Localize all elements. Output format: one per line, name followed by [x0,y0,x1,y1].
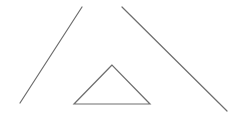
small-triangle [74,65,150,104]
right-line [122,7,227,111]
diagram-canvas [0,0,245,128]
diagram-svg [0,0,245,128]
left-line [20,7,82,103]
